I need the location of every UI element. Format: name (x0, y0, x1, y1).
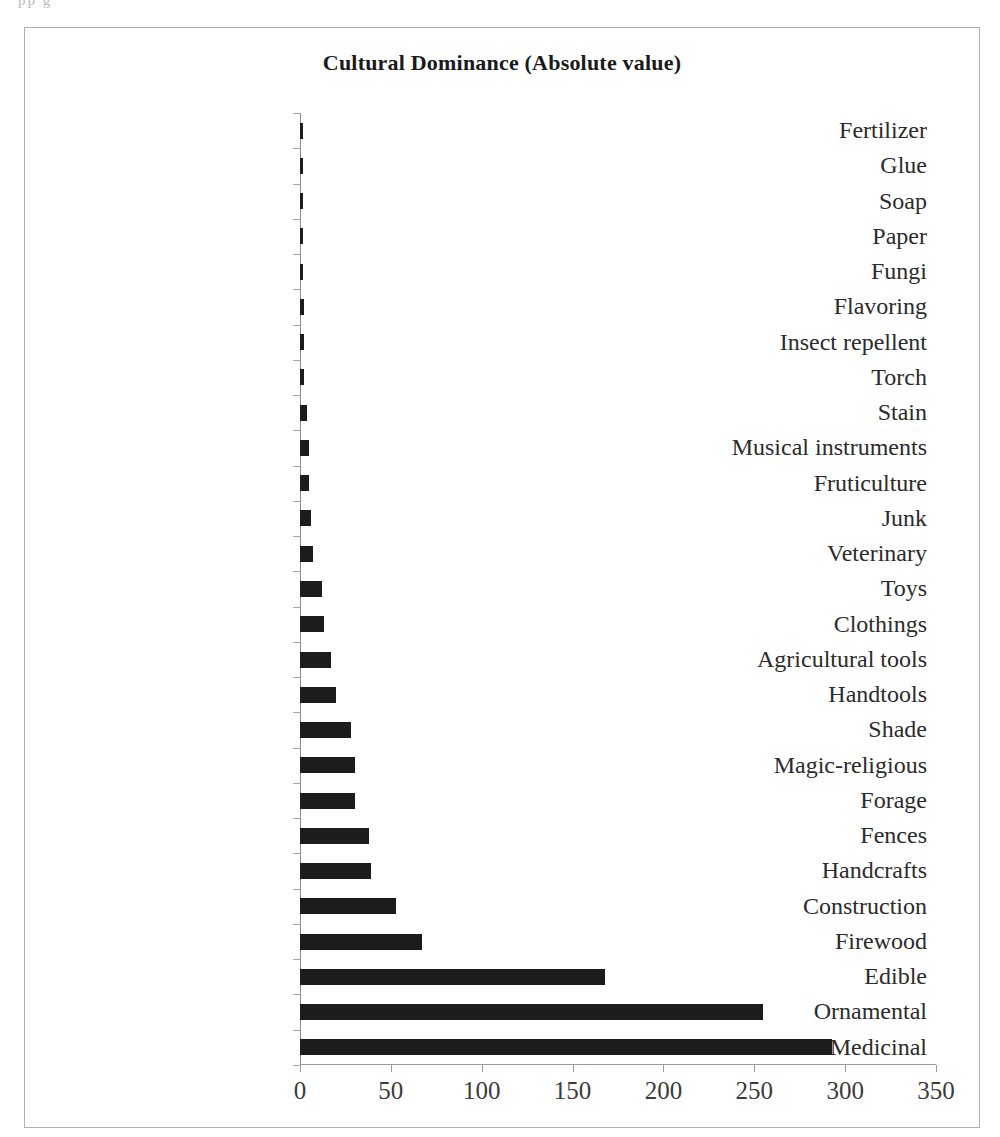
category-label: Fertilizer (839, 113, 927, 148)
x-axis-tick-label: 250 (736, 1077, 774, 1105)
bar-row: Clothings (300, 607, 936, 642)
bar-row: Fruticulture (300, 466, 936, 501)
x-axis-tick (573, 1065, 574, 1072)
bar-row: Fertilizer (300, 113, 936, 148)
bar (300, 369, 304, 385)
bar-row: Junk (300, 501, 936, 536)
x-axis-tick (300, 1065, 301, 1072)
bar (300, 228, 303, 244)
category-label: Construction (803, 889, 927, 924)
bar (300, 1039, 832, 1055)
y-axis-tick (293, 748, 300, 749)
x-axis-tick (754, 1065, 755, 1072)
y-axis-tick (293, 466, 300, 467)
category-label: Torch (871, 360, 927, 395)
category-label: Handcrafts (822, 853, 927, 888)
bar (300, 440, 309, 456)
x-axis-tick (482, 1065, 483, 1072)
bar-row: Handcrafts (300, 853, 936, 888)
bar-row: Toys (300, 571, 936, 606)
category-label: Stain (878, 395, 927, 430)
bar (300, 828, 369, 844)
y-axis-tick (293, 395, 300, 396)
y-axis-tick (293, 148, 300, 149)
bar (300, 687, 336, 703)
bar-row: Musical instruments (300, 430, 936, 465)
bar (300, 193, 303, 209)
bar (300, 405, 307, 421)
bar (300, 123, 303, 139)
bar (300, 158, 303, 174)
bar-row: Construction (300, 889, 936, 924)
bar-row: Flavoring (300, 289, 936, 324)
bar-row: Handtools (300, 677, 936, 712)
x-axis-tick-label: 350 (917, 1077, 955, 1105)
y-axis-tick (293, 1065, 300, 1066)
bar (300, 475, 309, 491)
bar-row: Veterinary (300, 536, 936, 571)
y-axis-tick (293, 254, 300, 255)
y-axis-tick (293, 430, 300, 431)
y-axis-tick (293, 712, 300, 713)
bar (300, 934, 422, 950)
category-label: Medicinal (830, 1030, 927, 1065)
category-label: Fungi (871, 254, 927, 289)
y-axis-tick (293, 325, 300, 326)
x-axis-tick-label: 100 (463, 1077, 501, 1105)
bar-row: Ornamental (300, 994, 936, 1029)
category-label: Fruticulture (814, 466, 927, 501)
y-axis-tick (293, 501, 300, 502)
category-label: Handtools (828, 677, 927, 712)
bar-row: Magic-religious (300, 748, 936, 783)
bar-row: Paper (300, 219, 936, 254)
y-axis-tick (293, 607, 300, 608)
bar (300, 793, 355, 809)
bar (300, 510, 311, 526)
scan-artifact-text: pp g (18, 0, 218, 12)
bar (300, 898, 396, 914)
bar-row: Stain (300, 395, 936, 430)
bar (300, 334, 304, 350)
category-label: Veterinary (827, 536, 927, 571)
bar (300, 616, 324, 632)
y-axis-tick (293, 677, 300, 678)
category-label: Soap (879, 184, 927, 219)
bar (300, 546, 313, 562)
bar-row: Shade (300, 712, 936, 747)
x-axis-tick (936, 1065, 937, 1072)
category-label: Insect repellent (780, 325, 927, 360)
x-axis-tick-label: 200 (645, 1077, 683, 1105)
category-label: Edible (864, 959, 927, 994)
y-axis-tick (293, 184, 300, 185)
category-label: Flavoring (834, 289, 927, 324)
y-axis-tick (293, 219, 300, 220)
x-axis-tick-label: 300 (826, 1077, 864, 1105)
plot-area: 050100150200250300350FertilizerGlueSoapP… (300, 113, 936, 1065)
bar (300, 652, 331, 668)
category-label: Clothings (834, 607, 927, 642)
category-label: Glue (880, 148, 927, 183)
category-label: Toys (881, 571, 927, 606)
x-axis-tick-label: 50 (378, 1077, 403, 1105)
category-label: Paper (872, 219, 927, 254)
category-label: Forage (860, 783, 927, 818)
bar (300, 264, 303, 280)
y-axis-tick (293, 536, 300, 537)
bar-row: Glue (300, 148, 936, 183)
y-axis-tick (293, 889, 300, 890)
y-axis-tick (293, 853, 300, 854)
x-axis-tick (845, 1065, 846, 1072)
y-axis-tick (293, 360, 300, 361)
bar-row: Firewood (300, 924, 936, 959)
category-label: Musical instruments (732, 430, 927, 465)
bar (300, 863, 371, 879)
bar-row: Torch (300, 360, 936, 395)
category-label: Ornamental (814, 994, 927, 1029)
category-label: Fences (860, 818, 927, 853)
x-axis-tick (663, 1065, 664, 1072)
bar (300, 1004, 763, 1020)
y-axis-tick (293, 994, 300, 995)
y-axis-tick (293, 113, 300, 114)
y-axis-tick (293, 642, 300, 643)
category-label: Junk (882, 501, 927, 536)
